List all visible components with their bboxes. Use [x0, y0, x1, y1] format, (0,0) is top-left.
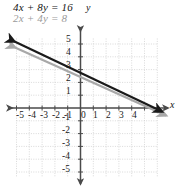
x-axis-label: x: [170, 99, 174, 110]
y-tick-label: -2: [62, 125, 70, 135]
x-tick-label: -3: [40, 110, 48, 120]
x-tick-label: -4: [28, 110, 36, 120]
x-tick-label: 4: [132, 110, 137, 120]
x-tick-label: -2: [52, 110, 60, 120]
x-tick-label: 3: [119, 110, 124, 120]
y-tick-label: 3: [66, 60, 71, 70]
x-tick-label: 1: [93, 110, 98, 120]
y-tick-label: 5: [66, 34, 71, 44]
equation-secondary: 2x + 4y = 8: [13, 13, 73, 24]
y-tick-label: -3: [62, 138, 70, 148]
y-tick-label: -5: [62, 164, 70, 174]
graph-figure: 4x + 8y = 16 2x + 4y = 8 y x -5-4-3-2-10…: [0, 0, 181, 195]
x-tick-label: 0: [81, 110, 86, 120]
coordinate-plane-svg: [0, 0, 181, 195]
equation-labels: 4x + 8y = 16 2x + 4y = 8: [13, 2, 73, 24]
line-4x-8y-16: [15, 42, 163, 112]
line-2x-4y-8: [15, 48, 166, 116]
y-tick-label: -1: [62, 112, 70, 122]
x-tick-label: -5: [16, 110, 24, 120]
y-tick-label: 4: [66, 47, 71, 57]
y-tick-label: -4: [62, 151, 70, 161]
y-tick-label: 1: [66, 86, 71, 96]
y-tick-label: 2: [66, 73, 71, 83]
y-axis-label: y: [86, 2, 90, 13]
x-tick-label: 2: [106, 110, 111, 120]
